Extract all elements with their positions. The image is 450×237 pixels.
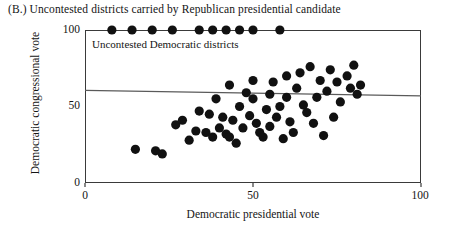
data-point bbox=[309, 119, 318, 128]
data-point bbox=[208, 133, 217, 142]
data-point bbox=[127, 25, 136, 34]
data-point bbox=[218, 113, 227, 122]
data-point bbox=[248, 76, 257, 85]
data-point bbox=[292, 84, 301, 93]
data-point bbox=[265, 90, 274, 99]
data-point bbox=[235, 102, 244, 111]
data-point bbox=[349, 61, 358, 70]
data-point bbox=[282, 93, 291, 102]
data-point bbox=[248, 25, 257, 34]
data-point bbox=[353, 90, 362, 99]
data-point bbox=[191, 126, 200, 135]
y-axis-tick-label: 50 bbox=[50, 99, 80, 111]
data-point bbox=[252, 119, 261, 128]
data-point bbox=[312, 93, 321, 102]
x-axis-tick-label: 50 bbox=[233, 189, 273, 201]
data-point bbox=[195, 25, 204, 34]
data-point bbox=[225, 80, 234, 89]
data-point bbox=[195, 106, 204, 115]
data-point bbox=[222, 25, 231, 34]
y-axis-tick-label: 100 bbox=[50, 23, 80, 35]
data-point bbox=[265, 122, 274, 131]
data-point bbox=[262, 105, 271, 114]
data-point bbox=[332, 77, 341, 86]
data-point bbox=[235, 25, 244, 34]
x-axis-label: Democratic presidential vote bbox=[85, 208, 421, 220]
data-point bbox=[232, 139, 241, 148]
series-0 bbox=[107, 25, 284, 34]
data-point bbox=[158, 149, 167, 158]
data-point bbox=[336, 97, 345, 106]
data-point bbox=[185, 136, 194, 145]
data-point bbox=[178, 116, 187, 125]
data-point bbox=[272, 113, 281, 122]
data-point bbox=[285, 117, 294, 126]
data-point bbox=[228, 116, 237, 125]
data-point bbox=[326, 65, 335, 74]
data-point bbox=[107, 25, 116, 34]
y-axis-label: Democratic congressional vote bbox=[29, 23, 41, 183]
y-axis-tick-label: 0 bbox=[50, 176, 80, 188]
data-point bbox=[302, 108, 311, 117]
data-point bbox=[148, 25, 157, 34]
figure-panel-b: (B.) Uncontested districts carried by Re… bbox=[0, 0, 450, 237]
scatter-plot-canvas bbox=[0, 0, 450, 237]
data-point bbox=[295, 68, 304, 77]
data-point bbox=[248, 94, 257, 103]
data-point bbox=[245, 111, 254, 120]
data-point bbox=[279, 134, 288, 143]
data-point bbox=[275, 102, 284, 111]
data-point bbox=[208, 25, 217, 34]
data-point bbox=[269, 77, 278, 86]
data-point bbox=[319, 131, 328, 140]
series-1 bbox=[131, 61, 365, 159]
data-point bbox=[168, 25, 177, 34]
data-point bbox=[356, 80, 365, 89]
data-point bbox=[329, 113, 338, 122]
data-point bbox=[342, 71, 351, 80]
x-axis-tick-label: 100 bbox=[400, 189, 440, 201]
data-point bbox=[131, 145, 140, 154]
data-point bbox=[275, 25, 284, 34]
data-point bbox=[322, 87, 331, 96]
data-point bbox=[306, 62, 315, 71]
axis-tick-marks bbox=[85, 183, 421, 187]
data-point bbox=[211, 94, 220, 103]
data-point bbox=[205, 110, 214, 119]
data-point bbox=[258, 133, 267, 142]
data-point bbox=[282, 71, 291, 80]
x-axis-tick-label: 0 bbox=[65, 189, 105, 201]
data-point bbox=[238, 123, 247, 132]
data-point bbox=[316, 76, 325, 85]
data-point bbox=[289, 128, 298, 137]
